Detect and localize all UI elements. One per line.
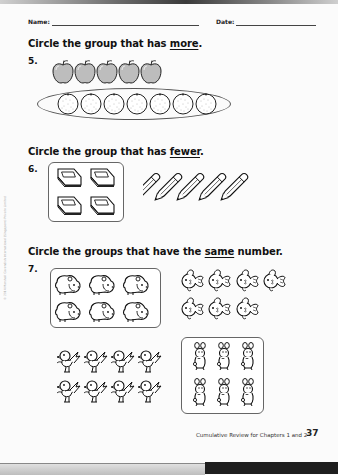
orange-group[interactable] xyxy=(57,92,219,116)
book-icon-grid xyxy=(49,163,123,221)
bird-group[interactable] xyxy=(54,346,168,406)
copyright-text: © 2014 Marshall Cavendish International … xyxy=(3,196,7,300)
instruction-text: Circle the group that has xyxy=(28,38,170,49)
apple-icon-row xyxy=(52,58,164,84)
question-5-number: 5. xyxy=(28,56,38,66)
orange-icon-row xyxy=(57,92,219,116)
date-label: Date: xyxy=(216,18,234,25)
question-7-number: 7. xyxy=(28,264,38,274)
pencil-icon-row xyxy=(143,172,265,212)
pencil-group[interactable] xyxy=(143,172,265,212)
top-edge-bar xyxy=(0,0,338,4)
instruction-keyword: same xyxy=(205,246,235,257)
question-6-instruction: Circle the group that has fewer. xyxy=(28,146,204,157)
bottom-edge-light xyxy=(0,463,205,475)
instruction-suffix: number. xyxy=(234,246,283,257)
name-input-line[interactable] xyxy=(52,25,199,26)
question-5-instruction: Circle the group that has more. xyxy=(28,38,202,49)
name-label: Name: xyxy=(28,18,50,25)
rabbit-group[interactable] xyxy=(181,337,264,414)
instruction-text: Circle the groups that have the xyxy=(28,246,205,257)
date-input-line[interactable] xyxy=(236,25,316,26)
question-7-instruction: Circle the groups that have the same num… xyxy=(28,246,283,257)
bear-icon-grid xyxy=(51,269,160,327)
instruction-suffix: . xyxy=(200,146,204,157)
page-number: 37 xyxy=(306,428,319,438)
bottom-edge-dark xyxy=(205,462,338,474)
instruction-keyword: fewer xyxy=(170,146,200,157)
rabbit-icon-grid xyxy=(182,338,263,413)
fish-icon-grid xyxy=(180,268,292,324)
bear-group[interactable] xyxy=(50,268,161,328)
bird-icon-grid xyxy=(54,346,168,406)
book-group[interactable] xyxy=(48,162,124,222)
instruction-text: Circle the group that has xyxy=(28,146,170,157)
fish-group[interactable] xyxy=(180,268,292,324)
footer-title: Cumulative Review for Chapters 1 and 2 xyxy=(196,432,307,438)
instruction-keyword: more xyxy=(170,38,199,49)
apple-group[interactable] xyxy=(52,58,164,84)
question-6-number: 6. xyxy=(28,164,38,174)
instruction-suffix: . xyxy=(198,38,202,49)
